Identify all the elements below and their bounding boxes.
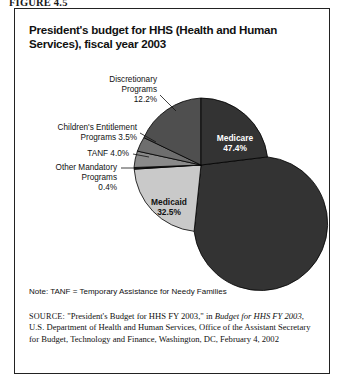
label-childrens-entitlement: Children's Entitlement Programs 3.5% <box>19 123 137 143</box>
label-childrens-line1: Children's Entitlement <box>19 123 137 133</box>
figure-panel: President's budget for HHS (Health and H… <box>14 8 330 374</box>
label-discretionary-line1: Discretionary <box>47 75 157 85</box>
label-discretionary-line3: 12.2% <box>47 95 157 105</box>
label-tanf-line1: TANF 4.0% <box>29 149 129 159</box>
source-text: SOURCE: "President's Budget for HHS FY 2… <box>29 311 319 345</box>
source-part1: "President's Budget for HHS FY 2003," in <box>65 311 215 321</box>
note-text: Note: TANF = Temporary Assistance for Ne… <box>29 286 319 297</box>
label-other-line1: Other Mandatory <box>17 163 117 173</box>
source-label: SOURCE: <box>29 312 65 321</box>
source-italic-title: Budget for HHS FY 2003 <box>215 311 302 321</box>
label-medicaid-line1: Medicaid <box>134 197 204 207</box>
label-medicare-line2: 47.4% <box>200 143 270 153</box>
leader-line-discretionary <box>160 95 176 111</box>
label-medicare-line1: Medicare <box>200 133 270 143</box>
figure-label: FIGURE 4.5 <box>9 0 68 8</box>
label-other-mandatory: Other Mandatory Programs 0.4% <box>17 163 117 194</box>
label-other-line3: 0.4% <box>17 183 117 193</box>
pie-slice-discretionary-cap <box>201 98 268 165</box>
label-medicare: Medicare 47.4% <box>200 133 270 154</box>
label-discretionary-line2: Programs <box>47 85 157 95</box>
pie-slice-medicare <box>194 157 328 291</box>
label-tanf: TANF 4.0% <box>29 149 129 159</box>
label-childrens-line2: Programs 3.5% <box>19 133 137 143</box>
label-medicaid: Medicaid 32.5% <box>134 197 204 218</box>
label-discretionary: Discretionary Programs 12.2% <box>47 75 157 106</box>
label-other-line2: Programs <box>17 173 117 183</box>
label-medicaid-line2: 32.5% <box>134 207 204 217</box>
